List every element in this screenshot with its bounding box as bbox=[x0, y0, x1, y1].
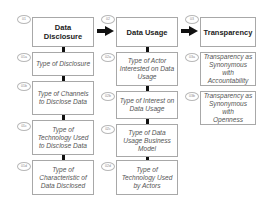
item-type-of-channels: Type of Channels to Disclose Data bbox=[32, 81, 94, 115]
item-text: to Disclose Data bbox=[37, 98, 88, 106]
item-type-of-business-model: Type of Data Usage Business Model bbox=[116, 124, 178, 157]
item-type-of-disclosure: Type of Disclosure bbox=[32, 52, 94, 76]
badge-02b: 02b bbox=[101, 92, 115, 101]
item-text: Type of Actor bbox=[120, 57, 174, 65]
badge-01c: 01c bbox=[17, 122, 31, 131]
item-text: Technology Used bbox=[38, 134, 89, 142]
item-text: Type of Disclosure bbox=[36, 60, 90, 68]
header-label-line1: Data bbox=[44, 23, 82, 32]
header-data-disclosure: Data Disclosure bbox=[32, 17, 94, 47]
badge-01a: 01a bbox=[17, 53, 31, 62]
item-type-of-technology-actors: Type of Technology Used by Actors bbox=[116, 160, 178, 195]
item-type-of-characteristic: Type of Characteristic of Data Disclosed bbox=[32, 160, 94, 195]
item-text: Accountability bbox=[203, 77, 253, 85]
item-text: Data Usage bbox=[120, 105, 175, 113]
item-text: Synonymous with bbox=[203, 61, 253, 77]
badge-02a: 02a bbox=[101, 53, 115, 62]
item-text: to Disclose Data bbox=[38, 142, 89, 150]
badge-02d: 02d bbox=[101, 162, 115, 171]
item-type-of-technology-disclose: Type of Technology Used to Disclose Data bbox=[32, 120, 94, 155]
header-transparency: Transparency bbox=[200, 17, 256, 47]
item-transparency-accountability: Transparency as Synonymous with Accounta… bbox=[200, 52, 256, 86]
header-label-line2: Disclosure bbox=[44, 32, 82, 41]
right-arrow-icon bbox=[181, 26, 198, 36]
item-text: Type of bbox=[39, 166, 87, 174]
item-text: by Actors bbox=[122, 182, 173, 190]
badge-03b: 03b bbox=[185, 92, 199, 101]
item-text: Type of Data bbox=[123, 129, 171, 137]
item-text: Type of Interest on bbox=[120, 97, 175, 105]
item-text: Transparency as bbox=[203, 92, 253, 100]
badge-01d: 01d bbox=[17, 162, 31, 171]
badge-01: 01 bbox=[17, 15, 31, 24]
badge-03a: 03a bbox=[185, 53, 199, 62]
badge-02c: 02c bbox=[101, 125, 115, 134]
item-text: Model bbox=[123, 145, 171, 153]
item-text: Transparency as bbox=[203, 53, 253, 61]
item-text: Interested on Data bbox=[120, 65, 174, 73]
item-text: Openness bbox=[203, 116, 253, 124]
item-text: Usage bbox=[120, 73, 174, 81]
item-text: Type of bbox=[38, 126, 89, 134]
item-type-of-actor: Type of Actor Interested on Data Usage bbox=[116, 52, 178, 86]
item-text: Characteristic of bbox=[39, 174, 87, 182]
right-arrow-icon bbox=[97, 26, 114, 36]
item-type-of-interest: Type of Interest on Data Usage bbox=[116, 91, 178, 119]
badge-02: 02 bbox=[101, 15, 115, 24]
badge-01b: 01b bbox=[17, 82, 31, 91]
item-text: Technology Used bbox=[122, 174, 173, 182]
badge-03: 03 bbox=[185, 15, 199, 24]
header-label-line1: Transparency bbox=[204, 28, 253, 37]
item-text: Data Disclosed bbox=[39, 182, 87, 190]
header-label-line1: Data Usage bbox=[127, 28, 168, 37]
item-text: Usage Business bbox=[123, 137, 171, 145]
header-data-usage: Data Usage bbox=[116, 17, 178, 47]
item-transparency-openness: Transparency as Synonymous with Openness bbox=[200, 91, 256, 125]
item-text: Type of Channels bbox=[37, 90, 88, 98]
item-text: Type of bbox=[122, 166, 173, 174]
item-text: Synonymous with bbox=[203, 100, 253, 116]
